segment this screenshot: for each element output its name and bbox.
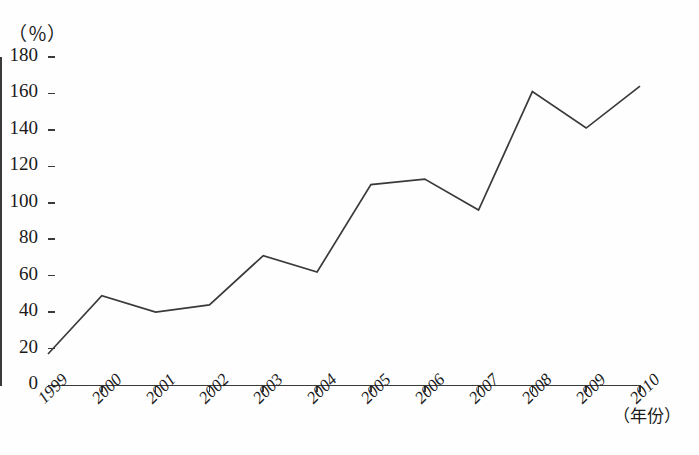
x-tick-label: 2007 <box>465 370 503 408</box>
y-tick-label: 140 <box>10 118 39 137</box>
y-tick-mark <box>48 311 55 313</box>
y-tick-mark <box>48 348 55 350</box>
x-tick-label: 2004 <box>303 370 341 408</box>
y-tick-mark <box>48 275 55 277</box>
chart-figure: （％） 020406080100120140160180 19992000200… <box>0 0 699 455</box>
x-tick-label: 2000 <box>88 370 126 408</box>
y-axis-line <box>0 57 2 386</box>
y-tick-label: 180 <box>10 45 39 64</box>
x-axis-title: （年份） <box>613 402 681 427</box>
y-tick-mark <box>48 238 55 240</box>
y-tick-label: 60 <box>19 264 38 283</box>
x-tick-label: 2008 <box>518 370 556 408</box>
x-tick-label: 2003 <box>249 370 287 408</box>
x-tick-label: 1999 <box>34 370 72 408</box>
x-tick-label: 2009 <box>572 370 610 408</box>
y-tick-mark <box>48 93 55 95</box>
y-tick-label: 40 <box>19 300 38 319</box>
y-tick-mark <box>48 166 55 168</box>
y-tick-label: 160 <box>10 81 39 100</box>
y-tick-mark <box>48 129 55 131</box>
y-tick-label: 0 <box>29 373 39 392</box>
y-tick-mark <box>48 202 55 204</box>
x-tick-label: 2001 <box>142 370 180 408</box>
y-tick-label: 100 <box>10 191 39 210</box>
y-tick-mark <box>48 56 55 58</box>
y-axis-unit-label: （％） <box>8 19 67 46</box>
y-tick-label: 120 <box>10 154 39 173</box>
y-tick-label: 80 <box>19 227 38 246</box>
x-tick-label: 2005 <box>357 370 395 408</box>
x-tick-label: 2006 <box>411 370 449 408</box>
x-tick-label: 2002 <box>195 370 233 408</box>
data-polyline <box>48 86 640 354</box>
y-tick-label: 20 <box>19 337 38 356</box>
